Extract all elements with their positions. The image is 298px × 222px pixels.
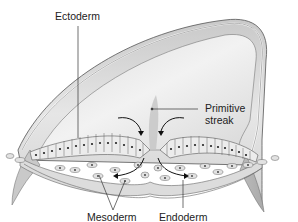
label-endoderm: Endoderm xyxy=(159,212,207,222)
label-mesoderm: Mesoderm xyxy=(87,212,137,222)
gastrulation-illustration xyxy=(0,0,298,222)
label-ectoderm: Ectoderm xyxy=(55,11,100,22)
label-primitive-streak-line1: Primitive xyxy=(205,103,245,114)
label-primitive-streak-line2: streak xyxy=(205,115,234,126)
diagram-root: Ectoderm Primitive streak Mesoderm Endod… xyxy=(0,0,298,222)
